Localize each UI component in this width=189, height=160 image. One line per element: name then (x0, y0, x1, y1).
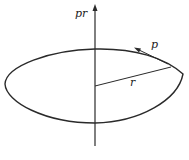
axis-label: pr (75, 7, 88, 20)
radius-label: r (130, 76, 136, 89)
momentum-label: p (151, 38, 158, 51)
orbit-curve (5, 49, 183, 123)
axis-arrow-icon (93, 4, 98, 11)
orbit-diagram: pr r p (0, 0, 189, 160)
momentum-vector (137, 49, 168, 64)
